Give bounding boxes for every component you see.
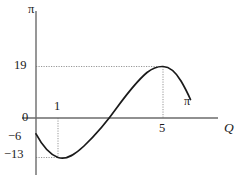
profit-function-chart: π Q 19 0 −6 −13 1 5 π — [0, 0, 242, 180]
x-tick-label-5: 5 — [159, 122, 165, 135]
y-tick-label-19: 19 — [14, 59, 27, 72]
y-tick-label-minus-6: −6 — [8, 130, 21, 143]
chart-canvas — [0, 0, 242, 180]
y-axis-label: π — [28, 3, 34, 16]
x-axis-label: Q — [224, 121, 234, 135]
curve-label-pi: π — [184, 95, 190, 107]
y-tick-label-minus-13: −13 — [4, 148, 24, 161]
x-tick-label-1: 1 — [54, 100, 60, 113]
y-tick-label-0: 0 — [22, 111, 28, 124]
